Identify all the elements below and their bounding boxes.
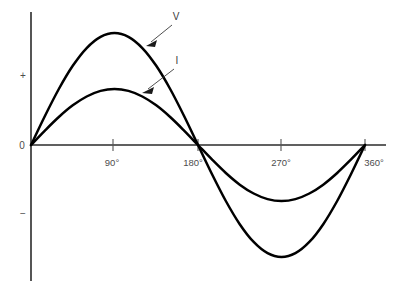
label-voltage: V xyxy=(173,11,180,22)
label-current: I xyxy=(176,55,179,66)
y-label-minus: − xyxy=(20,208,26,219)
sine-wave-figure: + 0 − 90° 180° 270° 360° V I xyxy=(0,0,404,287)
voltage-leader-line xyxy=(151,25,172,42)
x-label-270: 270° xyxy=(271,157,291,168)
current-arrowhead-icon xyxy=(142,87,154,94)
y-label-plus: + xyxy=(20,70,26,81)
y-label-zero: 0 xyxy=(19,140,25,151)
annotation-voltage: V xyxy=(146,11,180,47)
annotation-current: I xyxy=(142,55,178,94)
x-label-180: 180° xyxy=(183,157,203,168)
x-label-90: 90° xyxy=(105,157,120,168)
plot-canvas: + 0 − 90° 180° 270° 360° V I xyxy=(0,0,404,287)
x-label-360: 360° xyxy=(364,157,384,168)
